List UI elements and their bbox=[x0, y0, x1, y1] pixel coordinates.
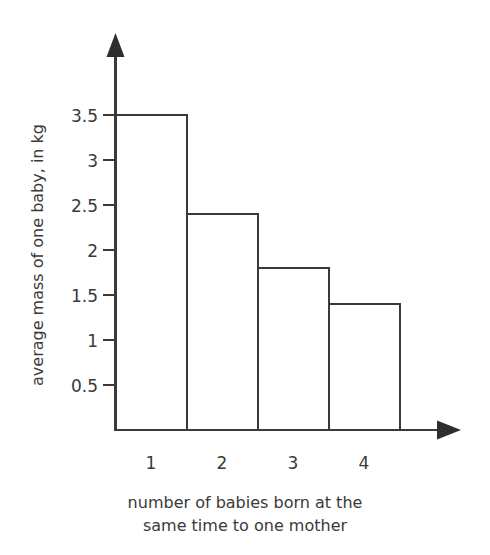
y-axis-arrow-icon bbox=[107, 33, 125, 57]
x-axis-arrow-icon bbox=[437, 421, 461, 440]
x-axis-tick-labels: 1 2 3 4 bbox=[146, 453, 370, 473]
x-axis-title-line-2: same time to one mother bbox=[143, 516, 348, 535]
y-tick-label-1: 1 bbox=[87, 331, 98, 351]
bar-category-2 bbox=[187, 214, 258, 430]
y-tick-label-2.5: 2.5 bbox=[71, 196, 98, 216]
bar-category-1 bbox=[116, 115, 187, 430]
y-tick-label-0.5: 0.5 bbox=[71, 376, 98, 396]
y-tick-label-1.5: 1.5 bbox=[71, 286, 98, 306]
bar-category-4 bbox=[329, 304, 400, 430]
y-tick-label-2: 2 bbox=[87, 241, 98, 261]
x-tick-label-1: 1 bbox=[146, 453, 157, 473]
x-tick-label-3: 3 bbox=[288, 453, 299, 473]
y-axis-title: average mass of one baby, in kg bbox=[28, 124, 47, 386]
chart-canvas: 0.5 1 1.5 2 2.5 3 3.5 1 2 3 4 number of … bbox=[0, 0, 490, 555]
x-axis-title: number of babies born at the same time t… bbox=[128, 493, 363, 535]
x-axis-title-line-1: number of babies born at the bbox=[128, 493, 363, 512]
y-tick-label-3: 3 bbox=[87, 151, 98, 171]
x-tick-label-4: 4 bbox=[359, 453, 370, 473]
y-axis-title-text: average mass of one baby, in kg bbox=[28, 124, 47, 386]
bar-chart: 0.5 1 1.5 2 2.5 3 3.5 1 2 3 4 number of … bbox=[0, 0, 490, 555]
x-tick-label-2: 2 bbox=[217, 453, 228, 473]
y-tick-label-3.5: 3.5 bbox=[71, 106, 98, 126]
y-axis-ticks bbox=[103, 115, 115, 385]
bar-category-3 bbox=[258, 268, 329, 430]
bars-group bbox=[116, 115, 400, 430]
y-axis-tick-labels: 0.5 1 1.5 2 2.5 3 3.5 bbox=[71, 106, 98, 396]
